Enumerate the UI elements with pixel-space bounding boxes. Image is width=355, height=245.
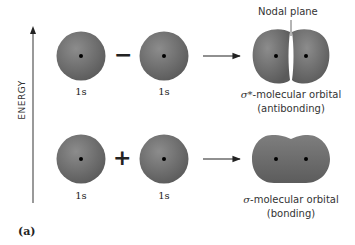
bottom-right-1s-orbital xyxy=(140,135,189,184)
top-left-1s-orbital xyxy=(57,32,106,81)
antibonding-title: σ*-molecular orbital xyxy=(231,88,351,102)
antibonding-orbital-label: σ*-molecular orbital (antibonding) xyxy=(231,88,351,116)
subtraction-operator: − xyxy=(114,44,132,66)
nucleus-icon xyxy=(274,54,278,58)
bottom-right-orbital-label: 1s xyxy=(149,190,179,201)
addition-operator: + xyxy=(113,147,131,169)
top-left-orbital-label: 1s xyxy=(66,86,96,97)
bottom-left-1s-orbital xyxy=(57,135,106,184)
bonding-orbital xyxy=(252,135,330,183)
bonding-title: σ-molecular orbital xyxy=(231,193,351,207)
nucleus-icon xyxy=(79,157,83,161)
nucleus-icon xyxy=(274,157,278,161)
nucleus-icon xyxy=(79,54,83,58)
nucleus-icon xyxy=(304,54,308,58)
energy-axis-label: ENERGY xyxy=(17,70,27,130)
antibonding-type: (antibonding) xyxy=(231,102,351,116)
nucleus-icon xyxy=(304,157,308,161)
axis-arrow-icon xyxy=(30,26,36,34)
nucleus-icon xyxy=(162,157,166,161)
top-right-1s-orbital xyxy=(140,32,189,81)
top-right-orbital-label: 1s xyxy=(149,86,179,97)
nodal-plane-annotation: Nodal plane xyxy=(258,6,318,17)
antibonding-orbital xyxy=(253,20,330,84)
nucleus-icon xyxy=(162,54,166,58)
bottom-left-orbital-label: 1s xyxy=(66,190,96,201)
bonding-type: (bonding) xyxy=(231,207,351,221)
bonding-orbital-label: σ-molecular orbital (bonding) xyxy=(231,193,351,221)
panel-label: (a) xyxy=(18,225,36,238)
energy-axis xyxy=(30,26,36,203)
